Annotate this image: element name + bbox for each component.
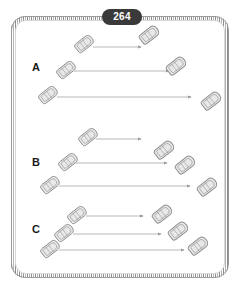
page-number-badge: 264 (102, 9, 142, 25)
group-label-a: A (32, 61, 40, 73)
group-label-c: C (32, 223, 40, 235)
group-label-b: B (32, 156, 40, 168)
frame-inner-surface (15, 20, 225, 274)
sailing-maneuver-diagram: 264 ABC (0, 0, 244, 292)
